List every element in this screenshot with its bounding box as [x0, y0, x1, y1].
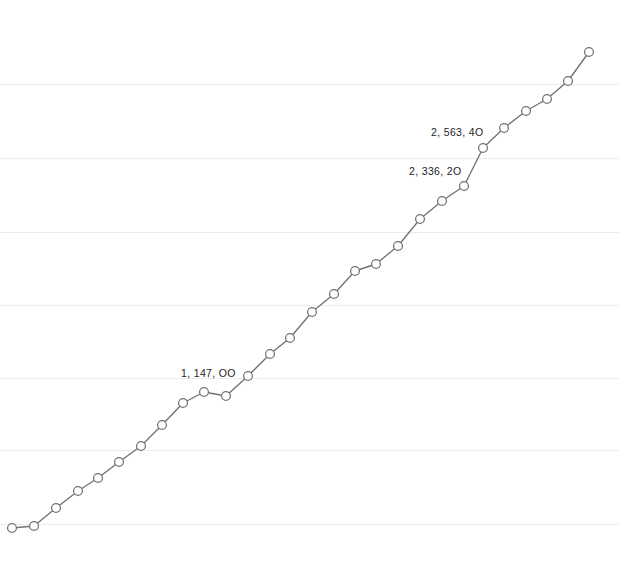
data-point-marker[interactable] [372, 260, 381, 269]
data-point-marker[interactable] [308, 308, 317, 317]
data-point-marker[interactable] [222, 392, 231, 401]
data-point-marker[interactable] [460, 182, 469, 191]
data-point-marker[interactable] [244, 372, 253, 381]
data-point-marker[interactable] [94, 474, 103, 483]
data-point-marker[interactable] [500, 124, 509, 133]
data-point-marker[interactable] [137, 442, 146, 451]
data-point-marker[interactable] [394, 242, 403, 251]
data-point-marker[interactable] [286, 334, 295, 343]
data-point-marker[interactable] [351, 267, 360, 276]
data-point-marker[interactable] [200, 388, 209, 397]
data-point-marker[interactable] [585, 48, 594, 57]
data-point-marker[interactable] [158, 421, 167, 430]
data-point-markers-group [8, 48, 594, 533]
data-point-marker[interactable] [115, 458, 124, 467]
data-point-marker[interactable] [416, 215, 425, 224]
data-point-marker[interactable] [564, 77, 573, 86]
data-point-marker[interactable] [74, 487, 83, 496]
data-point-marker[interactable] [179, 399, 188, 408]
line-chart-canvas [0, 0, 619, 584]
data-point-marker[interactable] [438, 197, 447, 206]
chart-container: 1, 147, OO2, 336, 2O2, 563, 4O [0, 0, 619, 584]
data-point-marker[interactable] [8, 524, 17, 533]
gridlines-group [0, 85, 619, 525]
data-point-marker[interactable] [30, 522, 39, 531]
data-point-marker[interactable] [543, 95, 552, 104]
data-point-marker[interactable] [330, 290, 339, 299]
data-point-marker[interactable] [522, 107, 531, 116]
data-point-marker[interactable] [266, 350, 275, 359]
data-point-marker[interactable] [479, 144, 488, 153]
data-point-marker[interactable] [52, 504, 61, 513]
